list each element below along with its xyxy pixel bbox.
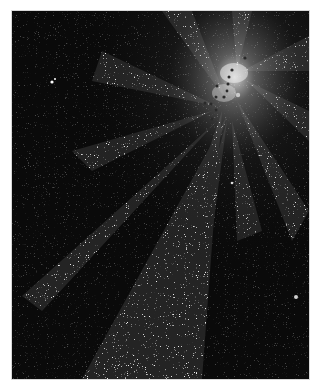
bright-star [294, 295, 298, 299]
center-glow [12, 11, 309, 379]
starburst-artwork [12, 11, 309, 379]
artwork-image: Artwork of a radiating white starburst o… [12, 11, 309, 379]
bright-star [50, 80, 53, 83]
